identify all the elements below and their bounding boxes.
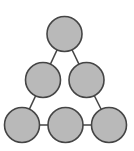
node-n3 (69, 63, 104, 98)
graph-diagram (0, 0, 134, 151)
node-n2 (26, 63, 61, 98)
node-n5 (48, 108, 83, 143)
node-n1 (47, 17, 82, 52)
node-n6 (92, 108, 127, 143)
node-n4 (5, 108, 40, 143)
nodes-group (5, 17, 127, 143)
